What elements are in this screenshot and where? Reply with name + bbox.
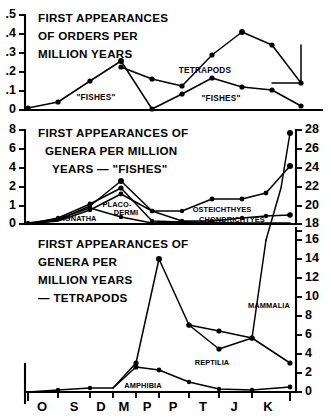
middle-panel-title-line-1: FIRST APPEARANCES OF: [38, 126, 189, 139]
middle-y2tick-label-22: 22: [305, 179, 319, 193]
top-ytick-label-2: .2: [6, 64, 16, 78]
bottom-series-reptilia-point: [216, 346, 221, 351]
panel-top: 0 .1 .2 .3 .4 .5 FIRST APPEARANCES OF OR…: [6, 7, 322, 116]
bottom-series-amphibia-point: [187, 380, 191, 384]
middle-annotation-dermi: DERMI: [114, 208, 138, 217]
middle-series-chondrichtyes-point: [180, 219, 184, 223]
bottom-y2tick-label-0: 0: [305, 384, 312, 398]
bottom-y2tick-label-6: 6: [305, 327, 312, 341]
top-ytick-label-4: .4: [6, 26, 16, 40]
top-series-fishes-point: [87, 78, 92, 83]
top-annotation-tetrapods: TETRAPODS: [179, 66, 232, 75]
top-series-tetrapods-point: [269, 42, 274, 47]
panel-bottom: 0 2 4 6 8 10 12 14 16 FIRST APPEARANCES …: [25, 228, 319, 414]
top-series-fishes2-point: [269, 87, 274, 92]
middle-series-placodermi-point: [118, 185, 123, 190]
bottom-xtick-label-3: M: [119, 399, 130, 414]
middle-annotation-chondrichtyes: CHONDRICHTYES: [199, 215, 265, 224]
bottom-xtick-label-7: J: [230, 399, 237, 414]
panel-middle: 8 6 4 2 1 0 28 26 24 22 20 18 FIRST APPE…: [9, 122, 319, 240]
bottom-y2tick-label-2: 2: [305, 365, 312, 379]
top-series-tetrapods-point: [149, 76, 154, 81]
middle-annotation-agnatha: AGNATHA: [59, 214, 97, 223]
middle-y2tick-label-28: 28: [305, 122, 319, 136]
middle-y2tick-label-20: 20: [305, 198, 319, 212]
middle-series-chondrichtyes-point: [88, 208, 92, 212]
top-panel-title-line-1: FIRST APPEARANCES: [38, 11, 168, 24]
bottom-panel-title-line-1: FIRST APPEARANCES OF: [38, 237, 189, 250]
middle-annotation-osteichthyes: OSTEICHTHYES: [193, 205, 252, 214]
bottom-y2tick-label-16: 16: [305, 232, 319, 246]
bottom-xtick-label-0: O: [37, 399, 47, 414]
bottom-xtick-label-5: P: [169, 399, 178, 414]
middle-y2tick-label-26: 26: [305, 141, 319, 155]
middle-series-osteichthyes-point: [240, 197, 245, 202]
bottom-series-amphibia-point: [288, 385, 293, 390]
middle-series-osteichthyes-point: [210, 197, 215, 202]
bottom-series-mammalia-line: [189, 240, 266, 338]
bottom-xtick-label-6: T: [199, 399, 207, 414]
bottom-panel-title-line-3: MILLION YEARS: [38, 273, 133, 286]
bottom-xtick-label-4: P: [143, 399, 152, 414]
top-series-tetrapods-point: [239, 29, 245, 35]
bottom-xtick-label-8: K: [263, 399, 273, 414]
bottom-series-mammalia-point: [249, 335, 254, 340]
bottom-xtick-label-1: S: [70, 399, 79, 414]
bottom-y2tick-label-8: 8: [305, 308, 312, 322]
middle-series-osteichthyes-point: [264, 191, 269, 196]
top-series-fishes-point: [55, 99, 60, 104]
bottom-series-reptilia-point: [133, 360, 138, 365]
paleontology-figure: 0 .1 .2 .3 .4 .5 FIRST APPEARANCES OF OR…: [0, 0, 331, 418]
top-ytick-label-3: .3: [6, 45, 16, 59]
top-series-fishes-point: [118, 58, 124, 64]
bottom-xtick-label-2: D: [96, 399, 105, 414]
top-series-tetrapods-point: [209, 52, 214, 57]
top-annotation-fishes-left: "FISHES": [77, 93, 116, 102]
bottom-series-amphibia-point: [157, 368, 162, 373]
middle-ytick-label-8: 8: [9, 122, 16, 136]
middle-series-chondrichtyes-point: [119, 192, 124, 197]
top-ytick-label-1: .1: [6, 83, 16, 97]
bottom-series-mammalia-point: [216, 328, 221, 333]
middle-series-osteichthyes-point: [180, 209, 184, 213]
middle-ytick-label-6: 6: [9, 141, 16, 155]
bottom-annotation-amphibia: AMPHIBIA: [124, 381, 162, 390]
bottom-series-amphibia-point: [88, 386, 92, 390]
bottom-y2tick-label-10: 10: [305, 289, 319, 303]
middle-ytick-label-2: 2: [9, 179, 16, 193]
bottom-series-reptilia-point: [287, 360, 292, 365]
top-series-fishes-point: [25, 105, 30, 110]
bottom-series-reptilia-line: [113, 259, 290, 388]
bottom-series-amphibia-point: [56, 388, 60, 392]
middle-series-placodermi-point: [150, 219, 154, 223]
top-panel-title-line-2: OF ORDERS PER: [38, 29, 138, 42]
middle-ytick-label-0: 0: [9, 216, 16, 230]
top-series-fishes2-point: [298, 103, 303, 108]
middle-series-chondrichtyes-point: [287, 212, 293, 218]
middle-panel-title-line-2: GENERA PER MILLION: [45, 144, 178, 157]
top-series-fishes2-point: [179, 91, 184, 96]
bottom-series-reptilia-point: [156, 256, 162, 262]
top-series-fishes2-point: [239, 84, 244, 89]
top-series-tetrapods-point: [118, 64, 123, 69]
top-series-tetrapods-point: [179, 83, 184, 88]
middle-ytick-label-1: 1: [9, 198, 16, 212]
middle-y2tick-label-18: 18: [305, 216, 319, 230]
bottom-y2tick-label-4: 4: [305, 346, 312, 360]
figure-canvas: 0 .1 .2 .3 .4 .5 FIRST APPEARANCES OF OR…: [0, 0, 331, 418]
bottom-panel-title-line-4: — TETRAPODS: [38, 291, 128, 304]
top-annotation-fishes-right: "FISHES": [202, 94, 241, 103]
bottom-panel-title-line-2: GENERA PER: [38, 255, 118, 268]
middle-panel-title-line-3: YEARS — "FISHES": [52, 162, 168, 175]
middle-y2tick-label-24: 24: [305, 160, 319, 174]
top-ytick-label-0: 0: [9, 102, 16, 116]
bottom-annotation-reptilia: REPTILIA: [195, 358, 230, 367]
bottom-annotation-mammalia: MAMMALIA: [248, 301, 290, 310]
bottom-series-amphibia-point: [250, 388, 254, 392]
bottom-y2tick-label-12: 12: [305, 270, 319, 284]
top-series-fishes2-point: [209, 75, 214, 80]
bottom-series-mammalia-point: [186, 322, 191, 327]
middle-ytick-label-4: 4: [9, 160, 16, 174]
middle-mammalia-overshoot-point: [287, 130, 293, 136]
middle-series-osteichthyes-point: [118, 178, 124, 184]
